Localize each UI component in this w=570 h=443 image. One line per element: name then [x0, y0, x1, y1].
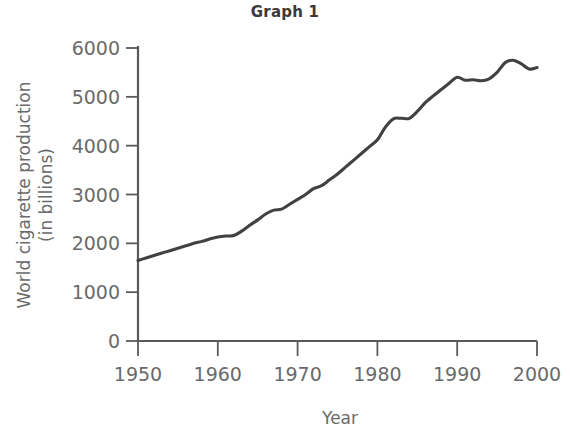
y-axis-title: World cigarette production (in billions) — [14, 82, 56, 309]
x-tick-label: 1960 — [194, 363, 242, 385]
y-tick-label: 4000 — [72, 135, 120, 157]
y-axis-tick-labels: 0100020003000400050006000 — [72, 37, 120, 352]
y-tick-label: 2000 — [72, 232, 120, 254]
y-tick-label: 0 — [108, 330, 120, 352]
y-tick-label: 5000 — [72, 86, 120, 108]
y-tick-label: 1000 — [72, 281, 120, 303]
y-tick-label: 3000 — [72, 184, 120, 206]
x-tick-label: 1970 — [273, 363, 321, 385]
y-axis-ticks — [126, 48, 138, 341]
chart-container: Graph 1 0100020003000400050006000 195019… — [0, 0, 570, 443]
y-tick-label: 6000 — [72, 37, 120, 59]
x-tick-label: 1990 — [433, 363, 481, 385]
x-tick-label: 2000 — [513, 363, 561, 385]
data-series-line — [138, 60, 537, 260]
y-axis-title-line1: World cigarette production — [14, 82, 34, 309]
x-tick-label: 1980 — [353, 363, 401, 385]
x-axis-title: Year — [321, 408, 358, 428]
x-axis-ticks — [138, 341, 537, 356]
x-axis-tick-labels: 195019601970198019902000 — [114, 363, 561, 385]
x-tick-label: 1950 — [114, 363, 162, 385]
y-axis-title-line2: (in billions) — [36, 148, 56, 242]
line-chart-plot: 0100020003000400050006000 19501960197019… — [0, 0, 570, 443]
